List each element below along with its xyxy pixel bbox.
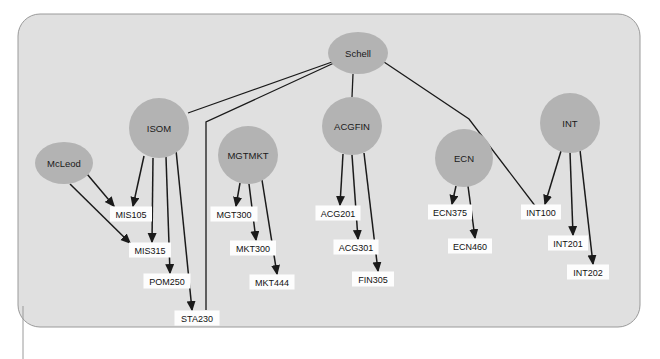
hierarchy-diagram: SchellISOMMcLeodMGTMKTACGFINECNINT MIS10… xyxy=(0,0,660,359)
course-box-bg-mkt300[interactable] xyxy=(230,241,276,256)
node-shape-mgtmkt[interactable] xyxy=(218,126,278,184)
node-shape-schell[interactable] xyxy=(328,32,388,74)
course-box-bg-mkt444[interactable] xyxy=(250,275,295,290)
diagram-panel xyxy=(18,14,640,327)
course-box-int202[interactable]: INT202 xyxy=(567,265,609,280)
course-box-int100[interactable]: INT100 xyxy=(521,205,561,220)
node-schell[interactable]: Schell xyxy=(328,32,388,74)
course-box-pom250[interactable]: POM250 xyxy=(144,274,191,289)
course-box-bg-mis315[interactable] xyxy=(129,243,171,258)
course-box-bg-int201[interactable] xyxy=(548,236,588,251)
course-box-bg-acg301[interactable] xyxy=(334,240,379,255)
node-mgtmkt[interactable]: MGTMKT xyxy=(218,126,278,184)
node-ecn[interactable]: ECN xyxy=(435,129,493,187)
course-box-mkt444[interactable]: MKT444 xyxy=(250,275,295,290)
course-box-mis315[interactable]: MIS315 xyxy=(129,243,171,258)
course-box-ecn460[interactable]: ECN460 xyxy=(448,239,492,254)
node-int[interactable]: INT xyxy=(540,93,600,153)
node-shape-int[interactable] xyxy=(540,93,600,153)
course-box-fin305[interactable]: FIN305 xyxy=(352,272,394,287)
course-box-bg-ecn460[interactable] xyxy=(448,239,492,254)
course-box-mgt300[interactable]: MGT300 xyxy=(211,207,258,222)
course-box-sta230[interactable]: STA230 xyxy=(175,311,220,326)
course-box-acg301[interactable]: ACG301 xyxy=(334,240,379,255)
course-box-bg-int100[interactable] xyxy=(521,205,561,220)
course-box-bg-fin305[interactable] xyxy=(352,272,394,287)
course-box-bg-int202[interactable] xyxy=(567,265,609,280)
node-shape-isom[interactable] xyxy=(129,98,189,158)
course-box-mkt300[interactable]: MKT300 xyxy=(230,241,276,256)
course-box-bg-pom250[interactable] xyxy=(144,274,191,289)
course-box-bg-acg201[interactable] xyxy=(316,206,361,221)
course-box-acg201[interactable]: ACG201 xyxy=(316,206,361,221)
diagram-canvas: SchellISOMMcLeodMGTMKTACGFINECNINT MIS10… xyxy=(0,0,660,359)
course-box-bg-sta230[interactable] xyxy=(175,311,220,326)
course-box-bg-mis105[interactable] xyxy=(110,207,152,222)
node-shape-acgfin[interactable] xyxy=(322,97,382,155)
node-shape-mcleod[interactable] xyxy=(35,142,93,184)
course-box-ecn375[interactable]: ECN375 xyxy=(428,205,472,220)
course-box-bg-ecn375[interactable] xyxy=(428,205,472,220)
edge-isom-to-mis315 xyxy=(152,158,153,242)
node-isom[interactable]: ISOM xyxy=(129,98,189,158)
node-mcleod[interactable]: McLeod xyxy=(35,142,93,184)
course-box-bg-mgt300[interactable] xyxy=(211,207,258,222)
course-box-mis105[interactable]: MIS105 xyxy=(110,207,152,222)
course-box-int201[interactable]: INT201 xyxy=(548,236,588,251)
node-acgfin[interactable]: ACGFIN xyxy=(322,97,382,155)
node-shape-ecn[interactable] xyxy=(435,129,493,187)
